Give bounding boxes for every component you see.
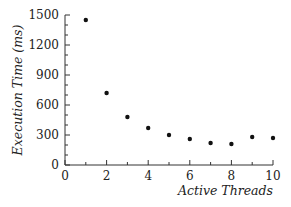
x-tick-label: 4 bbox=[144, 169, 152, 183]
data-point bbox=[271, 136, 275, 140]
data-point bbox=[229, 142, 233, 146]
scatter-chart: 0246810030060090012001500 Execution Time… bbox=[0, 0, 291, 207]
y-tick-label: 300 bbox=[36, 128, 59, 142]
y-tick-label: 600 bbox=[36, 98, 59, 112]
y-tick-label: 1200 bbox=[28, 38, 59, 52]
data-point bbox=[146, 126, 150, 130]
data-point bbox=[208, 141, 212, 145]
data-point bbox=[84, 18, 88, 22]
data-point bbox=[250, 135, 254, 139]
x-tick-label: 0 bbox=[61, 169, 69, 183]
data-point bbox=[167, 133, 171, 137]
x-tick-label: 10 bbox=[265, 169, 280, 183]
axes: 0246810030060090012001500 bbox=[28, 8, 280, 183]
data-point bbox=[188, 137, 192, 141]
y-axis-label: Execution Time (ms) bbox=[10, 24, 25, 156]
y-tick-label: 900 bbox=[36, 68, 59, 82]
x-tick-label: 6 bbox=[186, 169, 194, 183]
data-point bbox=[104, 91, 108, 95]
y-tick-label: 1500 bbox=[28, 8, 59, 22]
x-tick-label: 2 bbox=[103, 169, 111, 183]
y-tick-label: 0 bbox=[51, 158, 59, 172]
x-axis-label: Active Threads bbox=[177, 183, 273, 198]
data-point bbox=[125, 115, 129, 119]
x-tick-label: 8 bbox=[228, 169, 236, 183]
data-points bbox=[84, 18, 276, 146]
